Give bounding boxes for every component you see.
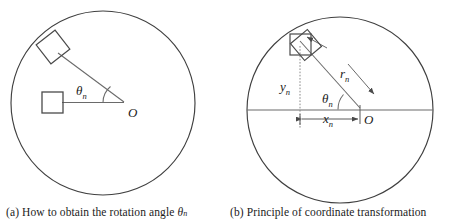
- center-label-a: O: [128, 105, 138, 120]
- caption-b-text: Principle of coordinate transformation: [247, 206, 427, 218]
- radius-arrow-lower-b: [348, 64, 374, 94]
- caption-a-text: How to obtain the rotation angle: [22, 206, 174, 218]
- y-label-b: yn: [278, 79, 290, 97]
- x-label-b: xn: [322, 111, 333, 129]
- angle-label-a: θn: [76, 83, 87, 101]
- caption-b-prefix: (b): [230, 206, 244, 218]
- caption-panel-a: (a) How to obtain the rotation angle θn: [6, 206, 187, 218]
- angle-arc-b: [338, 95, 344, 110]
- radius-label-b: rn: [340, 66, 349, 84]
- center-label-b: O: [364, 112, 374, 127]
- caption-a-prefix: (a): [6, 206, 19, 218]
- aligned-square-a: [42, 92, 63, 113]
- radius-arrow-upper-b: [307, 37, 327, 48]
- diagram-panel-b: rn θn yn xn O: [230, 0, 459, 204]
- radius-line-a: [58, 53, 124, 102]
- caption-panel-b: (b) Principle of coordinate transformati…: [230, 206, 426, 218]
- angle-label-b: θn: [322, 91, 333, 109]
- caption-a-symbol-subscript: n: [183, 209, 187, 218]
- diagram-panel-a: θn O: [0, 0, 230, 204]
- figure-container: θn O: [0, 0, 459, 224]
